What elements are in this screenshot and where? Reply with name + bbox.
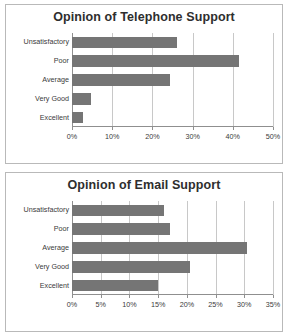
x-tick-label: 35%: [266, 300, 280, 309]
gridline: [273, 33, 274, 127]
bar-row: [72, 223, 273, 235]
chart-title-email: Opinion of Email Support: [6, 178, 282, 192]
x-tick-label: 10%: [105, 132, 119, 141]
bar-row: [72, 261, 273, 273]
category-axis-telephone: UnsatisfactoryPoorAverageVery GoodExcell…: [6, 33, 69, 127]
bar-row: [72, 205, 273, 217]
category-label: Very Good: [35, 262, 69, 271]
category-label: Excellent: [40, 113, 69, 122]
bar-row: [72, 37, 273, 49]
x-tick-label: 30%: [185, 132, 199, 141]
bar-row: [72, 74, 273, 86]
plot-area-email: [72, 201, 273, 295]
x-tickmarks-telephone: [72, 127, 273, 131]
bar-row: [72, 112, 273, 124]
x-tick-label: 0%: [67, 132, 77, 141]
bar: [72, 242, 247, 254]
x-tick-label: 50%: [266, 132, 280, 141]
x-tick: [233, 127, 234, 130]
bar: [72, 55, 239, 67]
x-tickmarks-email: [72, 295, 273, 299]
x-axis-labels-telephone: 0%10%20%30%40%50%: [72, 132, 273, 144]
bar: [72, 280, 158, 292]
bar: [72, 223, 170, 235]
bar: [72, 37, 177, 49]
chart-page: Opinion of Telephone Support Unsatisfact…: [0, 0, 288, 336]
category-axis-email: UnsatisfactoryPoorAverageVery GoodExcell…: [6, 201, 69, 295]
x-tick-label: 10%: [122, 300, 136, 309]
x-tick: [152, 127, 153, 130]
x-tick-label: 40%: [226, 132, 240, 141]
x-tick-label: 25%: [208, 300, 222, 309]
x-tick: [72, 295, 73, 298]
x-tick: [244, 295, 245, 298]
bar-row: [72, 280, 273, 292]
chart-title-telephone: Opinion of Telephone Support: [6, 10, 282, 24]
bar: [72, 74, 170, 86]
bar: [72, 261, 190, 273]
category-label: Unsatisfactory: [23, 205, 69, 214]
x-tick-label: 15%: [151, 300, 165, 309]
chart-email-support: Opinion of Email Support UnsatisfactoryP…: [5, 172, 283, 332]
plot-area-telephone: [72, 33, 273, 127]
category-label: Average: [42, 243, 69, 252]
x-tick: [273, 295, 274, 298]
x-tick: [273, 127, 274, 130]
category-label: Average: [42, 75, 69, 84]
x-tick: [112, 127, 113, 130]
x-tick: [101, 295, 102, 298]
category-label: Unsatisfactory: [23, 37, 69, 46]
x-tick: [193, 127, 194, 130]
bar-row: [72, 55, 273, 67]
x-tick-label: 20%: [145, 132, 159, 141]
bar-row: [72, 242, 273, 254]
category-label: Poor: [54, 224, 69, 233]
x-tick: [216, 295, 217, 298]
x-tick: [72, 127, 73, 130]
category-label: Poor: [54, 56, 69, 65]
bar: [72, 205, 164, 217]
x-tick-label: 0%: [67, 300, 77, 309]
category-label: Very Good: [35, 94, 69, 103]
bar: [72, 93, 91, 105]
bar-row: [72, 93, 273, 105]
gridline: [273, 201, 274, 295]
x-tick: [187, 295, 188, 298]
category-label: Excellent: [40, 281, 69, 290]
x-tick-label: 5%: [96, 300, 106, 309]
x-axis-labels-email: 0%5%10%15%20%25%30%35%: [72, 300, 273, 312]
x-tick-label: 20%: [180, 300, 194, 309]
bar: [72, 112, 83, 124]
x-tick-label: 30%: [237, 300, 251, 309]
x-tick: [129, 295, 130, 298]
chart-telephone-support: Opinion of Telephone Support Unsatisfact…: [5, 4, 283, 164]
x-tick: [158, 295, 159, 298]
